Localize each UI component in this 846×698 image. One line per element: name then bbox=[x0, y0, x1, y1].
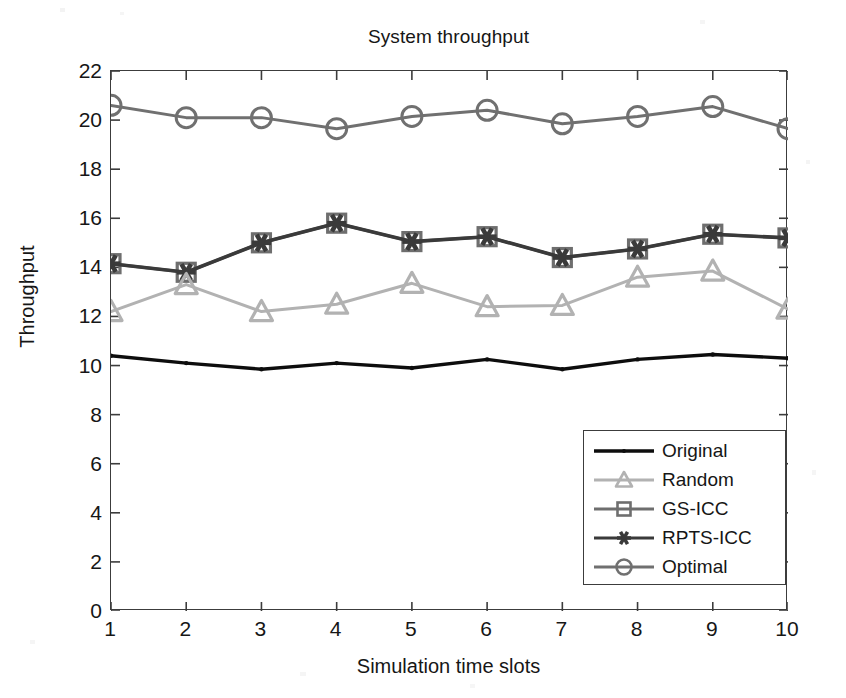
legend-label: Random bbox=[662, 470, 734, 489]
marker-dot bbox=[560, 367, 564, 371]
marker-dot bbox=[334, 361, 338, 365]
y-tick-label: 14 bbox=[56, 256, 102, 277]
y-tick-label: 22 bbox=[56, 60, 102, 81]
x-tick-label: 1 bbox=[80, 618, 140, 639]
series-random bbox=[111, 260, 788, 321]
legend-marker bbox=[617, 531, 631, 543]
marker-dot bbox=[184, 361, 188, 365]
series-line bbox=[111, 271, 788, 312]
legend-marker-asterisk-icon bbox=[592, 527, 656, 549]
legend-item-random[interactable]: Random bbox=[584, 465, 785, 494]
y-axis-tick-labels: 0246810121416182022 bbox=[48, 70, 102, 610]
series-gs-icc bbox=[111, 214, 788, 281]
x-axis-tick-labels: 12345678910 bbox=[110, 618, 787, 648]
x-tick-label: 7 bbox=[531, 618, 591, 639]
series-line bbox=[111, 223, 788, 272]
legend-item-original[interactable]: Original bbox=[584, 436, 785, 465]
x-tick-label: 5 bbox=[381, 618, 441, 639]
legend-marker-square-open-icon bbox=[592, 498, 656, 520]
series-optimal bbox=[111, 95, 788, 138]
legend-marker-dot-icon bbox=[592, 440, 656, 462]
x-tick-label: 10 bbox=[757, 618, 817, 639]
series-line bbox=[111, 355, 788, 370]
marker-dot bbox=[259, 367, 263, 371]
series-original bbox=[111, 352, 788, 371]
y-tick-label: 2 bbox=[56, 551, 102, 572]
x-tick-label: 4 bbox=[306, 618, 366, 639]
marker-dot bbox=[635, 357, 639, 361]
legend-marker-circle-open-icon bbox=[592, 556, 656, 578]
legend-item-rpts-icc[interactable]: RPTS-ICC bbox=[584, 523, 785, 552]
series-line bbox=[111, 223, 788, 272]
marker-dot bbox=[485, 357, 489, 361]
legend-label: RPTS-ICC bbox=[662, 528, 752, 547]
y-tick-label: 6 bbox=[56, 453, 102, 474]
x-tick-label: 6 bbox=[456, 618, 516, 639]
y-tick-label: 8 bbox=[56, 404, 102, 425]
x-axis-label: Simulation time slots bbox=[110, 655, 787, 678]
x-tick-label: 9 bbox=[682, 618, 742, 639]
y-tick-label: 12 bbox=[56, 305, 102, 326]
chart-figure: System throughput Throughput Simulation … bbox=[0, 0, 846, 698]
y-tick-label: 20 bbox=[56, 109, 102, 130]
marker-dot bbox=[410, 366, 414, 370]
x-tick-label: 2 bbox=[155, 618, 215, 639]
y-axis-label: Throughput bbox=[16, 237, 39, 357]
series-line bbox=[111, 105, 788, 128]
x-tick-label: 8 bbox=[607, 618, 667, 639]
legend-label: Optimal bbox=[662, 557, 727, 576]
y-tick-label: 18 bbox=[56, 158, 102, 179]
legend-label: GS-ICC bbox=[662, 499, 729, 518]
y-tick-label: 4 bbox=[56, 502, 102, 523]
series-rpts-icc bbox=[111, 215, 788, 281]
legend-marker bbox=[622, 449, 626, 453]
y-tick-label: 16 bbox=[56, 207, 102, 228]
legend-marker-triangle-icon bbox=[592, 469, 656, 491]
y-tick-label: 10 bbox=[56, 355, 102, 376]
chart-title: System throughput bbox=[110, 26, 787, 48]
legend-item-optimal[interactable]: Optimal bbox=[584, 552, 785, 581]
legend-label: Original bbox=[662, 441, 727, 460]
legend-item-gs-icc[interactable]: GS-ICC bbox=[584, 494, 785, 523]
chart-legend[interactable]: OriginalRandomGS-ICCRPTS-ICCOptimal bbox=[583, 430, 786, 585]
x-tick-label: 3 bbox=[230, 618, 290, 639]
marker-dot bbox=[711, 352, 715, 356]
